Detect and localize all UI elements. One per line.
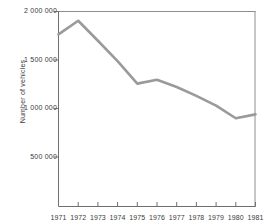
x-tick-label-1976: 1976: [146, 214, 168, 221]
line-chart: Number of vehicles 2 000 000 1 500 000 1…: [0, 0, 272, 223]
x-tick-label-1978: 1978: [185, 214, 207, 221]
plot-area: [0, 0, 272, 223]
x-tick-label-1975: 1975: [126, 214, 148, 221]
x-tick-label-1972: 1972: [67, 214, 89, 221]
x-tick-label-1973: 1973: [87, 214, 109, 221]
x-axis-ticks: [59, 202, 256, 207]
x-tick-label-1974: 1974: [107, 214, 129, 221]
x-tick-label-1971: 1971: [48, 214, 70, 221]
x-tick-label-1981: 1981: [245, 214, 267, 221]
series-line-number-of-vehicles: [59, 21, 256, 119]
x-tick-label-1979: 1979: [205, 214, 227, 221]
x-tick-label-1977: 1977: [166, 214, 188, 221]
x-tick-label-1980: 1980: [225, 214, 247, 221]
